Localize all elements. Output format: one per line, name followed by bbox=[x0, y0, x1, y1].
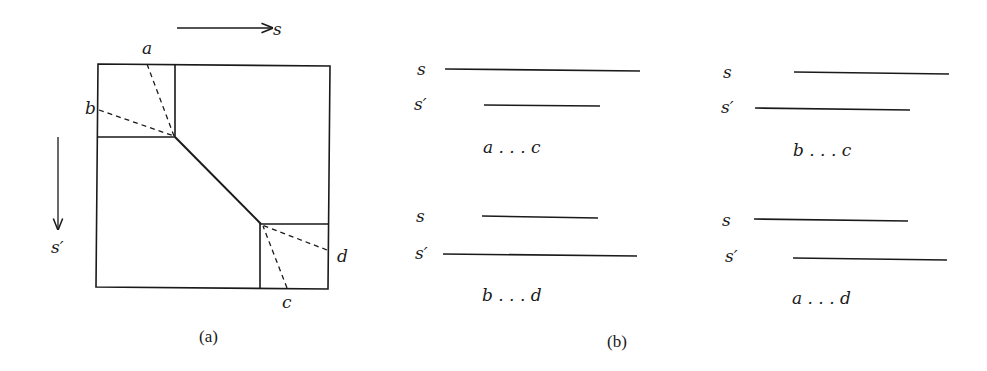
case-3-s-prime-label: s′ bbox=[415, 245, 428, 262]
dashed-line-b bbox=[99, 110, 174, 136]
case-1-s-prime-label: s′ bbox=[414, 96, 427, 113]
dashed-line-c bbox=[263, 226, 287, 288]
diagonal-path bbox=[175, 137, 261, 224]
case-3-s-label: s bbox=[416, 208, 425, 225]
corner-label-a: a bbox=[142, 40, 152, 57]
case-2-range: b . . . c bbox=[793, 142, 851, 159]
case-4-s-prime-label: s′ bbox=[725, 248, 738, 265]
top-left-box bbox=[98, 65, 175, 137]
dashed-line-a bbox=[147, 64, 174, 136]
caption-b: (b) bbox=[607, 333, 627, 350]
case-4-s-label: s bbox=[722, 212, 731, 229]
case-1-s-label: s bbox=[417, 61, 426, 78]
s-axis-label: s bbox=[273, 21, 282, 38]
panel-b-lines bbox=[443, 69, 949, 260]
case-1-range: a . . . c bbox=[483, 139, 540, 156]
case-4-s-line bbox=[754, 219, 908, 221]
case-4-s-prime-line bbox=[793, 258, 947, 260]
caption-a: (a) bbox=[199, 328, 218, 345]
case-3-s-line bbox=[482, 216, 598, 218]
s-prime-axis-label: s′ bbox=[51, 239, 64, 256]
case-4-range: a . . . d bbox=[792, 290, 851, 307]
corner-label-d: d bbox=[337, 248, 348, 265]
case-1-s-line bbox=[445, 69, 640, 71]
case-2-s-prime-label: s′ bbox=[721, 99, 734, 116]
case-2-s-label: s bbox=[723, 64, 732, 81]
case-3-s-prime-line bbox=[443, 254, 637, 256]
panel-a bbox=[58, 28, 330, 289]
dashed-line-d bbox=[262, 225, 327, 250]
case-2-s-line bbox=[794, 72, 949, 74]
case-3-range: b . . . d bbox=[482, 287, 542, 304]
corner-label-b: b bbox=[85, 100, 96, 117]
bottom-right-box bbox=[260, 224, 328, 288]
case-2-s-prime-line bbox=[755, 108, 910, 110]
case-1-s-prime-line bbox=[484, 105, 600, 106]
corner-label-c: c bbox=[282, 294, 292, 311]
